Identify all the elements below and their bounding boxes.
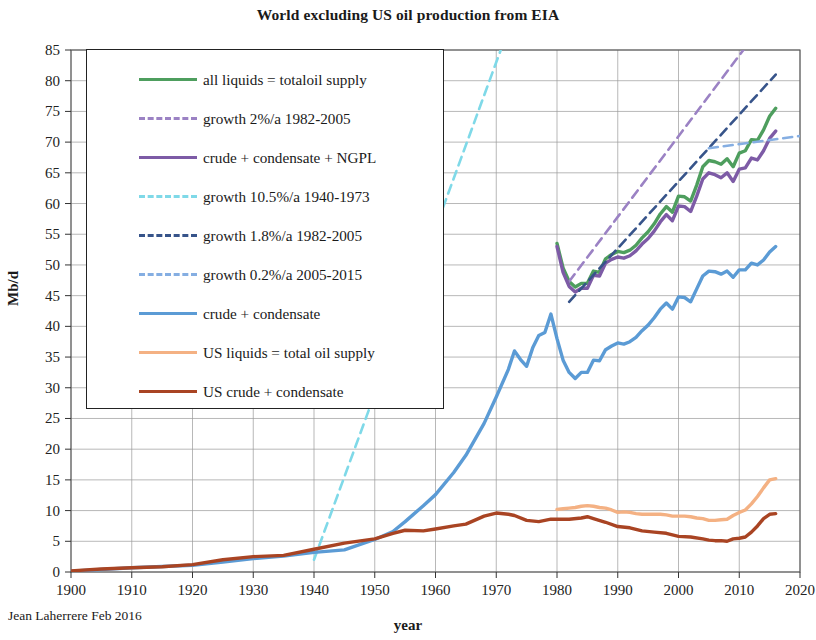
series-line bbox=[557, 131, 776, 292]
legend-swatch-icon bbox=[139, 234, 197, 237]
svg-text:25: 25 bbox=[45, 410, 60, 426]
svg-text:1990: 1990 bbox=[603, 582, 633, 598]
legend-item: all liquids = totaloil supply bbox=[87, 60, 443, 99]
svg-text:55: 55 bbox=[45, 226, 60, 242]
legend-swatch-icon bbox=[139, 117, 197, 120]
legend-item: crude + condensate bbox=[87, 294, 443, 333]
svg-text:2010: 2010 bbox=[724, 582, 754, 598]
svg-text:1960: 1960 bbox=[421, 582, 451, 598]
legend-item-label: US crude + condensate bbox=[203, 383, 344, 401]
chart-legend: all liquids = totaloil supplygrowth 2%/a… bbox=[86, 49, 444, 409]
legend-item-label: US liquids = total oil supply bbox=[203, 344, 375, 362]
legend-item-label: crude + condensate + NGPL bbox=[203, 149, 376, 167]
series-line bbox=[557, 108, 776, 287]
svg-text:70: 70 bbox=[45, 134, 60, 150]
legend-item-label: growth 10.5%/a 1940-1973 bbox=[203, 188, 370, 206]
svg-text:1900: 1900 bbox=[56, 582, 86, 598]
svg-text:15: 15 bbox=[45, 472, 60, 488]
legend-item: growth 10.5%/a 1940-1973 bbox=[87, 177, 443, 216]
legend-item-label: growth 2%/a 1982-2005 bbox=[203, 110, 351, 128]
svg-text:0: 0 bbox=[53, 564, 61, 580]
svg-text:50: 50 bbox=[45, 257, 60, 273]
svg-text:1920: 1920 bbox=[178, 582, 208, 598]
legend-swatch-icon bbox=[139, 273, 197, 276]
svg-text:5: 5 bbox=[53, 533, 61, 549]
legend-item: growth 1.8%/a 1982-2005 bbox=[87, 216, 443, 255]
series-line bbox=[557, 479, 776, 521]
svg-text:1970: 1970 bbox=[481, 582, 511, 598]
legend-item-label: growth 1.8%/a 1982-2005 bbox=[203, 227, 362, 245]
svg-text:85: 85 bbox=[45, 42, 60, 58]
svg-text:1910: 1910 bbox=[117, 582, 147, 598]
svg-text:1940: 1940 bbox=[299, 582, 329, 598]
svg-text:65: 65 bbox=[45, 165, 60, 181]
svg-text:60: 60 bbox=[45, 196, 60, 212]
svg-text:75: 75 bbox=[45, 103, 60, 119]
legend-item: growth 2%/a 1982-2005 bbox=[87, 99, 443, 138]
legend-swatch-icon bbox=[139, 78, 197, 81]
legend-item-label: growth 0.2%/a 2005-2015 bbox=[203, 266, 362, 284]
svg-text:45: 45 bbox=[45, 288, 60, 304]
legend-item: crude + condensate + NGPL bbox=[87, 138, 443, 177]
svg-text:80: 80 bbox=[45, 73, 60, 89]
svg-text:1980: 1980 bbox=[542, 582, 572, 598]
svg-text:1950: 1950 bbox=[360, 582, 390, 598]
legend-swatch-icon bbox=[139, 195, 197, 198]
series-line bbox=[569, 75, 776, 302]
legend-item: growth 0.2%/a 2005-2015 bbox=[87, 255, 443, 294]
series-line bbox=[71, 513, 776, 571]
legend-item-label: crude + condensate bbox=[203, 305, 320, 323]
svg-text:2020: 2020 bbox=[785, 582, 815, 598]
legend-swatch-icon bbox=[139, 156, 197, 159]
legend-item: US liquids = total oil supply bbox=[87, 333, 443, 372]
chart-root: World excluding US oil production from E… bbox=[0, 0, 816, 640]
svg-text:10: 10 bbox=[45, 503, 60, 519]
legend-swatch-icon bbox=[139, 351, 197, 354]
legend-item: US crude + condensate bbox=[87, 372, 443, 411]
legend-item-label: all liquids = totaloil supply bbox=[203, 71, 367, 89]
svg-text:30: 30 bbox=[45, 380, 60, 396]
legend-swatch-icon bbox=[139, 390, 197, 393]
legend-swatch-icon bbox=[139, 312, 197, 315]
svg-text:2000: 2000 bbox=[664, 582, 694, 598]
svg-text:20: 20 bbox=[45, 441, 60, 457]
svg-text:1930: 1930 bbox=[238, 582, 268, 598]
svg-text:40: 40 bbox=[45, 318, 60, 334]
svg-text:35: 35 bbox=[45, 349, 60, 365]
